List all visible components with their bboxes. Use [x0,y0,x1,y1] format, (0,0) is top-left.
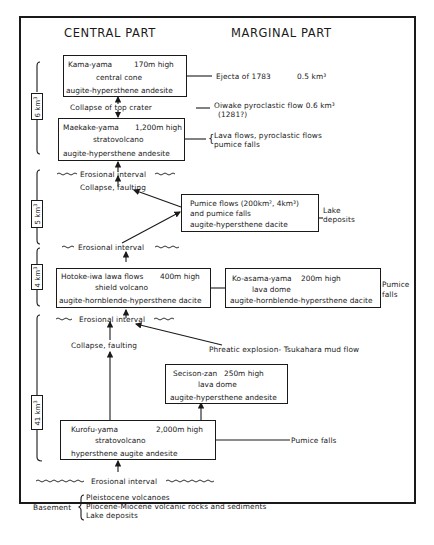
volcano-rock: hypersthene augite andesite [71,449,177,458]
pumice-flows-box: Pumice flows (200km², 4km³) and pumice f… [181,194,319,232]
basement-label: Basement [33,503,71,512]
oiwake-date: (1281?) [218,110,247,119]
collapse-faulting-1: Collapse, faulting [80,183,146,192]
erosional-interval-1: Erosional interval [80,170,146,179]
volcano-name: Ko-asama-yama [232,274,292,283]
volcano-name: Maekake-yama [63,123,119,132]
volcano-type: shield volcano [95,283,148,292]
collapse-top-crater-label: Collapse of top crater [70,103,152,112]
basement-item: Pliocene-Miocene volcanic rocks and sedi… [86,502,266,511]
volcano-name: Kurofu-yama [71,425,118,434]
volume-label-6: 6 km3 [31,93,43,120]
volcano-type: stratovolcano [95,436,145,445]
secison-zan-box: Secison-zan 250m high lava dome augite-h… [165,364,288,404]
volume-text: 6 km3 [32,96,42,117]
lake-deposits-label-2: deposits [323,215,355,224]
ko-asama-yama-box: Ko-asama-yama 200m high lava dome augite… [225,268,381,308]
volume-text: 41 km3 [32,400,42,425]
ejecta-volume: 0.5 km³ [297,72,326,81]
erosional-interval-2: Erosional interval [78,243,144,252]
volcano-height: 400m high [160,272,200,281]
volcano-type: central cone [96,73,142,82]
lake-deposits-label-1: Lake [323,206,341,215]
volcano-height: 200m high [301,274,341,283]
pumice-falls-text: and pumice falls [190,209,251,218]
volume-text: 5 km3 [32,204,42,225]
volcano-name: Kama-yama [68,60,112,69]
volcano-height: 250m high [224,369,264,378]
volcano-rock: augite-hornblende-hypersthene dacite [230,296,372,305]
volcano-height: 170m high [134,60,174,69]
pumice-falls-label: pumice falls [214,140,260,149]
basement-item: Pleistocene volcanoes [86,493,170,502]
pumice-flows-text: Pumice flows (200km², 4km³) [190,199,299,208]
volcano-type: lava dome [252,285,291,294]
volume-label-5: 5 km3 [31,200,43,228]
volcano-name: Secison-zan [173,369,217,378]
pumice-rock: augite-hypersthene dacite [190,220,288,229]
volume-label-41: 41 km3 [31,395,43,430]
basement-item: Lake deposits [86,511,138,520]
oiwake-label: Oiwake pyroclastic flow 0.6 km³ [214,101,335,110]
lava-flows-label: Lava flows, pyroclastic flows [214,131,322,140]
erosional-interval-3: Erosional interval [79,315,145,324]
volcano-type: lava dome [198,380,237,389]
hotoke-iwa-box: Hotoke-iwa lawa flows 400m high shield v… [56,268,211,308]
pumice-falls-koasama-1: Pumice [382,280,409,289]
volcano-type: stratovolcano [93,135,143,144]
pumice-falls-koasama-2: falls [382,290,398,299]
volcano-rock: augite-hypersthene andesite [170,393,277,402]
phreatic-explosion-label: Phreatic explosion- Tsukahara mud flow [209,345,359,354]
collapse-faulting-2: Collapse, faulting [71,341,137,350]
ejecta-label: Ejecta of 1783 [216,72,271,81]
volcano-height: 1,200m high [135,123,182,132]
volcano-height: 2,000m high [156,425,203,434]
kama-yama-box: Kama-yama 170m high central cone augite-… [63,55,187,97]
pumice-falls-kurofu: Pumice falls [291,436,337,445]
volume-label-4: 4 km3 [31,264,43,290]
volcano-rock: augite-hypersthene andesite [66,86,173,95]
central-part-header: CENTRAL PART [64,26,156,40]
volcano-rock: augite-hornblende-hypersthene dacite [59,296,201,305]
marginal-part-header: MARGINAL PART [231,26,332,40]
volcano-name: Hotoke-iwa lawa flows [61,272,143,281]
kurofu-yama-box: Kurofu-yama 2,000m high stratovolcano hy… [60,420,216,460]
volume-text: 4 km3 [32,267,42,288]
erosional-interval-4: Erosional interval [91,477,157,486]
maekake-yama-box: Maekake-yama 1,200m high stratovolcano a… [58,118,185,161]
volcano-rock: augite-hypersthene andesite [63,149,170,158]
